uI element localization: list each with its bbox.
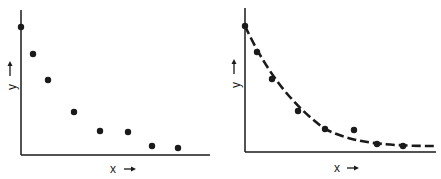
data-point xyxy=(18,24,24,30)
figure: y x y x xyxy=(0,0,441,179)
right-data-points xyxy=(242,23,406,149)
data-point xyxy=(71,109,77,115)
left-x-arrow-icon xyxy=(124,167,136,172)
data-point xyxy=(269,76,275,82)
data-point xyxy=(175,145,181,151)
data-point xyxy=(295,108,301,114)
right-y-label-text: y xyxy=(229,82,243,88)
right-x-label-text: x xyxy=(334,161,340,175)
data-point xyxy=(97,128,103,134)
right-y-arrow-icon xyxy=(232,59,237,74)
left-y-label: y xyxy=(5,84,19,90)
data-point xyxy=(254,49,260,55)
data-point xyxy=(322,126,328,132)
data-point xyxy=(149,143,155,149)
left-y-label-text: y xyxy=(5,84,19,90)
fitted-curve xyxy=(245,26,436,146)
left-y-arrow-icon xyxy=(8,61,13,76)
right-scatter-plot-with-fit: y x xyxy=(229,8,436,175)
data-point xyxy=(374,141,380,147)
data-point xyxy=(400,143,406,149)
data-point xyxy=(351,127,357,133)
data-point xyxy=(125,129,131,135)
left-data-points xyxy=(18,24,181,151)
data-point xyxy=(30,51,36,57)
left-x-label-text: x xyxy=(110,162,116,176)
data-point xyxy=(242,23,248,29)
data-point xyxy=(45,77,51,83)
right-y-label: y xyxy=(229,82,243,88)
left-scatter-plot: y x xyxy=(5,10,210,176)
right-x-arrow-icon xyxy=(347,166,359,171)
